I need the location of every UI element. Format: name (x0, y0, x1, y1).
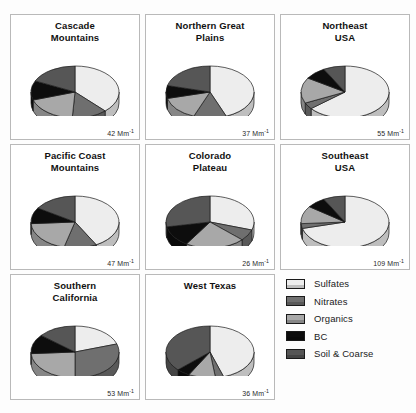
panel-extinction-value-text: 26 Mm (242, 260, 264, 267)
panel-extinction-value-text: 42 Mm (107, 130, 129, 137)
legend-label: Organics (314, 313, 353, 324)
panel-extinction-value: 36 Mm-1 (242, 388, 269, 397)
panel-title: Pacific CoastMountains (11, 150, 139, 173)
panel-extinction-value: 109 Mm-1 (373, 258, 404, 267)
pie-wrapper (25, 188, 125, 250)
pie-3d (160, 58, 260, 116)
panel-title: SouthernCalifornia (11, 280, 139, 303)
pie-panel: Northern GreatPlains37 Mm-1 (145, 14, 275, 140)
panel-extinction-value-exponent: -1 (264, 388, 269, 394)
legend-item[interactable]: BC (286, 331, 373, 342)
pie-top-face (301, 196, 389, 246)
pie-3d (295, 188, 395, 246)
panel-title-line2: USA (281, 32, 409, 44)
panel-title-line2: Plains (146, 32, 274, 44)
pie-top-face (166, 66, 254, 116)
panel-title-line1: Cascade (11, 20, 139, 32)
panel-title-line1: West Texas (146, 280, 274, 292)
pie-panel: Pacific CoastMountains47 Mm-1 (10, 144, 140, 270)
panel-title-line1: Southern (11, 280, 139, 292)
legend-item[interactable]: Sulfates (286, 278, 373, 289)
panel-title: ColoradoPlateau (146, 150, 274, 173)
panel-title-line1: Colorado (146, 150, 274, 162)
panel-extinction-value-exponent: -1 (264, 128, 269, 134)
pie-3d (25, 58, 125, 116)
pie-panel: SoutheastUSA109 Mm-1 (280, 144, 410, 270)
panel-title-line2: USA (281, 162, 409, 174)
panel-title-line2: Plateau (146, 162, 274, 174)
panel-title-line2: California (11, 292, 139, 304)
panel-title-line1: Pacific Coast (11, 150, 139, 162)
panel-title: NortheastUSA (281, 20, 409, 43)
pie-wrapper (160, 188, 260, 250)
panel-title-line1: Southeast (281, 150, 409, 162)
panel-title: Northern GreatPlains (146, 20, 274, 43)
panel-extinction-value-text: 53 Mm (107, 390, 129, 397)
pie-slice (166, 196, 210, 227)
legend-label: Soil & Coarse (314, 348, 373, 359)
legend-label: BC (314, 331, 327, 342)
legend-swatch (286, 349, 305, 359)
panel-extinction-value-exponent: -1 (129, 258, 134, 264)
legend-item[interactable]: Nitrates (286, 296, 373, 307)
panel-extinction-value-exponent: -1 (399, 128, 404, 134)
pie-top-face (31, 196, 119, 246)
panel-extinction-value: 37 Mm-1 (242, 128, 269, 137)
pie-3d (160, 318, 260, 376)
panel-title: CascadeMountains (11, 20, 139, 43)
pie-wrapper (160, 58, 260, 120)
panel-extinction-value-text: 47 Mm (107, 260, 129, 267)
legend-swatch (286, 331, 305, 341)
pie-panel: CascadeMountains42 Mm-1 (10, 14, 140, 140)
panel-title-line1: Northeast (281, 20, 409, 32)
panel-extinction-value: 47 Mm-1 (107, 258, 134, 267)
pie-top-face (31, 66, 119, 116)
legend-item[interactable]: Soil & Coarse (286, 348, 373, 359)
pie-3d (25, 188, 125, 246)
pie-wrapper (25, 318, 125, 380)
pie-wrapper (295, 188, 395, 250)
panel-title: SoutheastUSA (281, 150, 409, 173)
panel-extinction-value-text: 55 Mm (377, 130, 399, 137)
panel-title-line2: Mountains (11, 162, 139, 174)
pie-top-face (166, 196, 254, 246)
panel-extinction-value-exponent: -1 (264, 258, 269, 264)
legend-label: Nitrates (314, 296, 348, 307)
panel-extinction-value-text: 36 Mm (242, 390, 264, 397)
panel-title: West Texas (146, 280, 274, 292)
pie-panel: SouthernCalifornia53 Mm-1 (10, 274, 140, 400)
panel-extinction-value-exponent: -1 (129, 388, 134, 394)
legend-swatch (286, 314, 305, 324)
pie-3d (160, 188, 260, 246)
pie-wrapper (160, 318, 260, 380)
pie-panel: ColoradoPlateau26 Mm-1 (145, 144, 275, 270)
panel-extinction-value: 26 Mm-1 (242, 258, 269, 267)
pie-chart-grid: CascadeMountains42 Mm-1Northern GreatPla… (10, 14, 410, 404)
panel-extinction-value-exponent: -1 (399, 258, 404, 264)
legend-swatch (286, 296, 305, 306)
pie-3d (295, 58, 395, 116)
legend-list: SulfatesNitratesOrganicsBCSoil & Coarse (286, 278, 373, 359)
pie-panel: West Texas36 Mm-1 (145, 274, 275, 400)
pie-panel: NortheastUSA55 Mm-1 (280, 14, 410, 140)
pie-3d (25, 318, 125, 376)
panel-extinction-value: 53 Mm-1 (107, 388, 134, 397)
legend: SulfatesNitratesOrganicsBCSoil & Coarse (280, 274, 410, 400)
pie-top-face (31, 326, 119, 376)
legend-swatch (286, 279, 305, 289)
panel-title-line2: Mountains (11, 32, 139, 44)
pie-top-face (301, 66, 389, 116)
panel-title-line1: Northern Great (146, 20, 274, 32)
panel-extinction-value: 42 Mm-1 (107, 128, 134, 137)
pie-top-face (166, 326, 254, 376)
panel-extinction-value-text: 37 Mm (242, 130, 264, 137)
figure-canvas: CascadeMountains42 Mm-1Northern GreatPla… (0, 0, 416, 413)
legend-item[interactable]: Organics (286, 313, 373, 324)
panel-extinction-value-exponent: -1 (129, 128, 134, 134)
legend-label: Sulfates (314, 278, 349, 289)
pie-wrapper (295, 58, 395, 120)
panel-extinction-value: 55 Mm-1 (377, 128, 404, 137)
panel-extinction-value-text: 109 Mm (373, 260, 399, 267)
pie-wrapper (25, 58, 125, 120)
